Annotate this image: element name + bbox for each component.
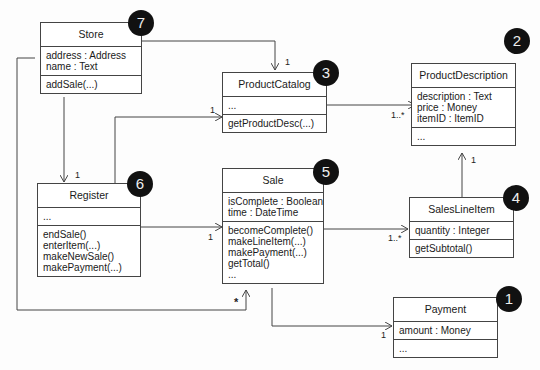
operations: getSubtotal() <box>410 240 513 257</box>
operation: addSale(...) <box>46 79 136 90</box>
badge-number: 2 <box>504 28 530 54</box>
operation: ... <box>228 269 318 280</box>
multiplicity-label: 1..* <box>391 110 405 120</box>
class-name: ProductCatalog <box>223 73 326 97</box>
attribute: ... <box>228 100 321 111</box>
operation: makePayment(...) <box>43 262 135 273</box>
operation: ... <box>417 131 510 142</box>
operation: endSale() <box>43 229 135 240</box>
multiplicity-label: 1 <box>285 57 290 67</box>
class-register[interactable]: Register ... endSale() enterItem(...) ma… <box>37 183 141 277</box>
operations: becomeComplete() makeLineItem(...) makeP… <box>223 222 323 283</box>
operations: ... <box>394 340 497 357</box>
operations: ... <box>412 128 515 145</box>
attributes: amount : Money <box>394 322 497 340</box>
attribute: address : Address <box>46 50 136 61</box>
operation: getSubtotal() <box>415 243 508 254</box>
operation: makeNewSale() <box>43 251 135 262</box>
operation: makePayment(...) <box>228 247 318 258</box>
attribute: description : Text <box>417 91 510 102</box>
attribute: time : DateTime <box>228 207 318 218</box>
multiplicity-label: 1..* <box>388 233 402 243</box>
operations: addSale(...) <box>41 76 141 93</box>
attributes: isComplete : Boolean time : DateTime <box>223 193 323 222</box>
class-name: ProductDescription <box>412 64 515 88</box>
class-sale[interactable]: Sale isComplete : Boolean time : DateTim… <box>222 168 324 284</box>
attributes: ... <box>38 208 140 226</box>
attributes: description : Text price : Money itemID … <box>412 88 515 128</box>
multiplicity-label: 1 <box>210 105 215 115</box>
class-name: Payment <box>394 298 497 322</box>
attribute: isComplete : Boolean <box>228 196 318 207</box>
attributes: address : Address name : Text <box>41 47 141 76</box>
operation: enterItem(...) <box>43 240 135 251</box>
badge-number: 4 <box>503 185 529 211</box>
badge-number: 6 <box>127 171 153 197</box>
attribute: name : Text <box>46 61 136 72</box>
badge-number: 7 <box>128 10 154 36</box>
multiplicity-label: * <box>234 296 238 308</box>
multiplicity-label: 1 <box>75 170 80 180</box>
badge-number: 3 <box>313 60 339 86</box>
multiplicity-label: 1 <box>471 155 476 165</box>
class-product-description[interactable]: ProductDescription description : Text pr… <box>411 63 516 146</box>
attribute: ... <box>43 211 135 222</box>
class-product-catalog[interactable]: ProductCatalog ... getProductDesc(...) <box>222 72 327 133</box>
class-store[interactable]: Store address : Address name : Text addS… <box>40 22 142 94</box>
operation: getTotal() <box>228 258 318 269</box>
class-name: SalesLineItem <box>410 198 513 222</box>
operation: becomeComplete() <box>228 225 318 236</box>
operation: ... <box>399 343 492 354</box>
class-sales-line-item[interactable]: SalesLineItem quantity : Integer getSubt… <box>409 197 514 258</box>
class-name: Store <box>41 23 141 47</box>
class-payment[interactable]: Payment amount : Money ... <box>393 297 498 358</box>
operation: getProductDesc(...) <box>228 118 321 129</box>
class-name: Register <box>38 184 140 208</box>
attributes: ... <box>223 97 326 115</box>
class-name: Sale <box>223 169 323 193</box>
attribute: itemID : ItemID <box>417 113 510 124</box>
operations: endSale() enterItem(...) makeNewSale() m… <box>38 226 140 276</box>
badge-number: 1 <box>496 286 522 312</box>
attribute: amount : Money <box>399 325 492 336</box>
badge-number: 5 <box>313 159 339 185</box>
operations: getProductDesc(...) <box>223 115 326 132</box>
attribute: price : Money <box>417 102 510 113</box>
multiplicity-label: 1 <box>381 330 386 340</box>
operation: makeLineItem(...) <box>228 236 318 247</box>
attribute: quantity : Integer <box>415 225 508 236</box>
attributes: quantity : Integer <box>410 222 513 240</box>
multiplicity-label: 1 <box>208 232 213 242</box>
